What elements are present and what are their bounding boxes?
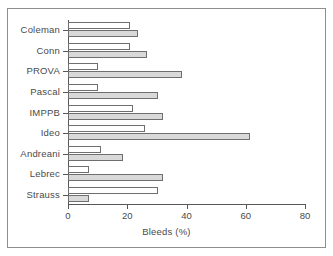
x-tick <box>305 204 306 209</box>
x-tick <box>246 204 247 209</box>
bar-filled <box>68 92 158 99</box>
bar-filled <box>68 113 163 120</box>
bar-filled <box>68 154 123 161</box>
y-tick-label: Strauss <box>26 188 60 201</box>
bar-open <box>68 43 130 50</box>
bar-filled <box>68 195 89 202</box>
bar-open <box>68 22 130 29</box>
y-tick-label: PROVA <box>26 64 60 77</box>
bar-open <box>68 166 89 173</box>
x-tick-label: 60 <box>240 210 251 222</box>
x-tick-label: 40 <box>181 210 192 222</box>
bar-open <box>68 63 98 70</box>
y-tick-label: Lebrec <box>30 167 60 180</box>
figure-canvas: ColemanConnPROVAPascalIMPPBIdeoAndreaniL… <box>0 0 333 256</box>
y-tick-label: Pascal <box>30 85 60 98</box>
y-tick-label: Andreani <box>20 147 60 160</box>
x-tick-label: 80 <box>300 210 311 222</box>
bar-open <box>68 187 158 194</box>
bar-filled <box>68 30 138 37</box>
bar-open <box>68 84 98 91</box>
x-tick-label: 0 <box>65 210 70 222</box>
bar-open <box>68 125 145 132</box>
y-tick-label: Coleman <box>21 23 60 36</box>
x-tick <box>127 204 128 209</box>
bar-filled <box>68 174 163 181</box>
x-axis-title: Bleeds (%) <box>0 226 333 237</box>
bar-open <box>68 146 101 153</box>
x-tick <box>68 204 69 209</box>
plot-area: ColemanConnPROVAPascalIMPPBIdeoAndreaniL… <box>68 20 305 205</box>
y-tick-label: Conn <box>36 44 60 57</box>
y-tick-label: IMPPB <box>29 106 60 119</box>
y-tick-label: Ideo <box>41 126 60 139</box>
bar-filled <box>68 133 250 140</box>
bar-filled <box>68 51 147 58</box>
bar-filled <box>68 71 182 78</box>
x-tick-label: 20 <box>122 210 133 222</box>
bar-open <box>68 105 133 112</box>
x-tick <box>187 204 188 209</box>
